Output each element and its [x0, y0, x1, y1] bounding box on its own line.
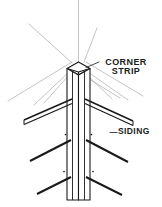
construction-line-left-d: [44, 74, 70, 103]
construction-line-left-a: [8, 62, 72, 101]
construction-line-right-d: [88, 76, 112, 99]
construction-line-left-b: [29, 24, 72, 63]
siding-board-right-2: [86, 140, 128, 162]
siding-board-right-1-top: [85, 99, 133, 121]
diagram-canvas: [0, 0, 162, 207]
siding-board-right-3: [86, 177, 122, 195]
siding-board-left-1-top: [24, 99, 72, 120]
siding-board-left-2: [30, 140, 71, 161]
construction-line-right-b: [84, 28, 97, 62]
nail-dot-right-lower: [92, 171, 94, 173]
label-corner-strip: CORNER STRIP: [96, 58, 156, 77]
label-siding: SIDING: [118, 127, 150, 136]
siding-board-left-3: [37, 177, 71, 194]
label-corner-strip-line2: STRIP: [96, 67, 156, 76]
nail-dot-left-upper: [65, 134, 67, 136]
nail-dot-right-upper: [91, 134, 93, 136]
nail-dot-left-lower: [63, 171, 65, 173]
siding-board-right-1-bottom: [85, 104, 133, 126]
construction-line-left-c: [34, 71, 70, 105]
construction-line-right-e: [89, 79, 120, 98]
siding-board-left-1-bottom: [24, 104, 72, 125]
corner-siding-diagram: CORNER STRIP SIDING: [0, 0, 162, 207]
